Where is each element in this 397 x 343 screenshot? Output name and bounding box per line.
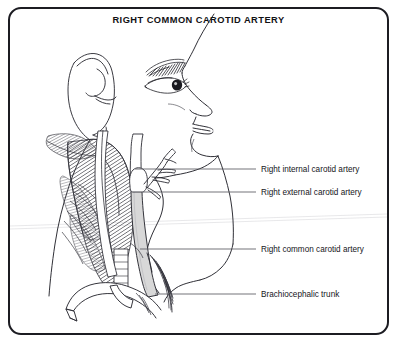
- label-internal-carotid-artery: Right internal carotid artery: [261, 165, 359, 174]
- carotid-bifurcation: [130, 168, 148, 192]
- scan-artifact: [10, 214, 387, 229]
- label-external-carotid-artery: Right external carotid artery: [261, 188, 362, 197]
- figure-page: RIGHT COMMON CAROTID ARTERY: [0, 0, 397, 343]
- external-carotid-artery: [144, 149, 176, 199]
- posterior-neck-muscle: [46, 134, 102, 159]
- iris: [172, 79, 182, 90]
- eyebrow: [146, 59, 185, 76]
- common-carotid-artery: [131, 189, 158, 297]
- head-profile: [155, 14, 218, 178]
- ear: [68, 53, 116, 140]
- label-brachiocephalic-trunk: Brachiocephalic trunk: [261, 290, 339, 299]
- clavicular-muscle-fan: [152, 257, 173, 310]
- cheek-contour: [168, 104, 194, 152]
- label-common-carotid-artery: Right common carotid artery: [261, 245, 364, 254]
